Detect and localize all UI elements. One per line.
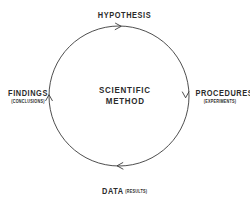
node-label-hypothesis: HYPOTHESIS: [0, 4, 250, 22]
node-label-hypothesis-text: HYPOTHESIS: [98, 10, 151, 20]
center-label: SCIENTIFIC METHOD: [0, 85, 250, 106]
node-sublabel-data-text: (RESULTS): [126, 189, 148, 194]
node-label-data-wrap: DATA(RESULTS): [102, 180, 147, 198]
node-label-data: DATA(RESULTS): [0, 180, 250, 198]
node-label-data-text: DATA: [102, 186, 124, 196]
center-label-line2: METHOD: [0, 96, 250, 107]
scientific-method-diagram: HYPOTHESIS PROCEDURES (EXPERIMENTS) DATA…: [0, 0, 250, 200]
